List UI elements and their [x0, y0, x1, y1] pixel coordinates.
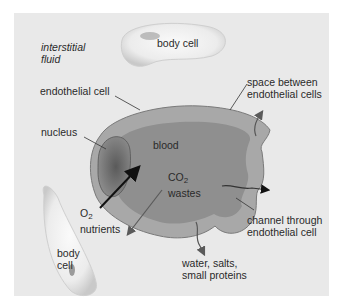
label-line: space between	[247, 76, 318, 88]
o2-subscript: 2	[88, 212, 92, 221]
label-line: small proteins	[182, 269, 247, 281]
blood-label: blood	[153, 139, 179, 151]
o2-text: O	[80, 207, 88, 219]
interstitial-fluid-label: interstitial fluid	[41, 41, 85, 65]
label-line: interstitial	[41, 41, 85, 53]
label-line: endothelial cell	[247, 226, 316, 238]
endothelial-cell-label: endothelial cell	[40, 85, 109, 97]
nutrients-text: nutrients	[80, 223, 120, 235]
co2-wastes-label: CO2 wastes	[168, 171, 201, 199]
label-line: water, salts,	[182, 257, 237, 269]
wastes-text: wastes	[168, 187, 201, 199]
label-line: endothelial cells	[247, 88, 322, 100]
space-between-label: space between endothelial cells	[247, 76, 322, 100]
body-cell-bottom-label: body cell	[57, 247, 80, 271]
co2-text: CO	[168, 171, 184, 183]
label-line: channel through	[247, 214, 322, 226]
channel-label: channel through endothelial cell	[247, 214, 322, 238]
label-line: cell	[57, 259, 73, 271]
o2-nutrients-label: O2 nutrients	[80, 207, 120, 235]
water-salts-label: water, salts, small proteins	[182, 257, 247, 281]
label-line: body	[57, 247, 80, 259]
nucleus-label: nucleus	[41, 126, 77, 138]
label-line: fluid	[41, 53, 60, 65]
body-cell-top-label: body cell	[157, 37, 198, 49]
body-cell-bottom	[43, 186, 96, 295]
co2-subscript: 2	[184, 176, 188, 185]
